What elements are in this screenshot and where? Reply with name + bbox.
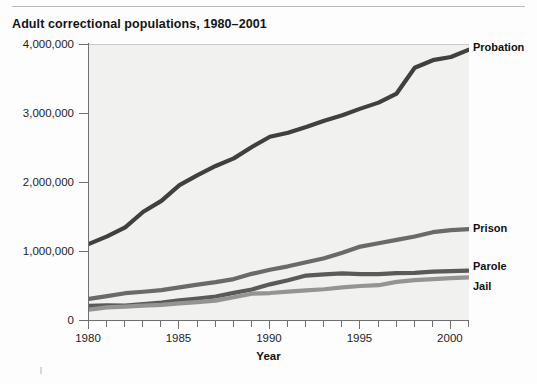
x-axis-tick: [88, 321, 89, 329]
y-axis-tick: [79, 251, 88, 252]
x-axis-tick: [341, 321, 342, 327]
x-axis-tick: [378, 321, 379, 327]
plot-lines-svg: [89, 45, 469, 321]
y-axis-tick-label: 0: [0, 314, 74, 326]
y-axis-tick: [79, 182, 88, 183]
x-axis-tick: [269, 321, 270, 329]
x-axis-tick: [106, 321, 107, 327]
chart-figure: Adult correctional populations, 1980–200…: [0, 0, 537, 384]
y-axis-line: [88, 43, 89, 321]
x-axis-tick: [160, 321, 161, 327]
x-axis-tick: [178, 321, 179, 329]
x-axis-tick: [396, 321, 397, 327]
y-axis-tick-label: 3,000,000: [0, 107, 74, 119]
series-label-probation: Probation: [473, 41, 524, 53]
x-axis-tick: [251, 321, 252, 327]
x-axis-tick: [432, 321, 433, 327]
x-axis-line: [88, 320, 469, 321]
x-axis-tick: [287, 321, 288, 327]
series-label-jail: Jail: [473, 280, 491, 292]
series-label-prison: Prison: [473, 222, 507, 234]
series-label-parole: Parole: [473, 260, 507, 272]
series-line-parole: [89, 271, 469, 306]
series-line-prison: [89, 229, 469, 299]
x-axis-title: Year: [0, 350, 537, 362]
x-axis-tick-label: 1990: [256, 332, 282, 344]
y-axis-tick: [79, 113, 88, 114]
x-axis-tick: [124, 321, 125, 327]
x-axis-tick-label: 2000: [437, 332, 463, 344]
x-axis-tick-label: 1995: [347, 332, 373, 344]
x-axis-tick: [233, 321, 234, 327]
x-axis-tick: [468, 321, 469, 327]
x-axis-tick: [142, 321, 143, 327]
series-line-probation: [89, 50, 469, 244]
x-axis-tick: [450, 321, 451, 329]
x-axis-tick-label: 1985: [166, 332, 192, 344]
y-axis-tick-label: 2,000,000: [0, 176, 74, 188]
x-axis-tick: [215, 321, 216, 327]
y-axis-tick-label: 4,000,000: [0, 38, 74, 50]
x-axis-tick-label: 1980: [75, 332, 101, 344]
paper-speck: [40, 367, 42, 374]
plot-area: [88, 44, 469, 321]
x-axis-tick: [305, 321, 306, 327]
x-axis-tick: [359, 321, 360, 329]
x-axis-tick: [414, 321, 415, 327]
y-axis-tick-label: 1,000,000: [0, 245, 74, 257]
x-axis-tick: [323, 321, 324, 327]
x-axis-tick: [197, 321, 198, 327]
y-axis-tick: [79, 44, 88, 45]
y-axis-tick: [79, 320, 88, 321]
top-rule-divider: [12, 6, 525, 7]
chart-title: Adult correctional populations, 1980–200…: [12, 17, 267, 31]
